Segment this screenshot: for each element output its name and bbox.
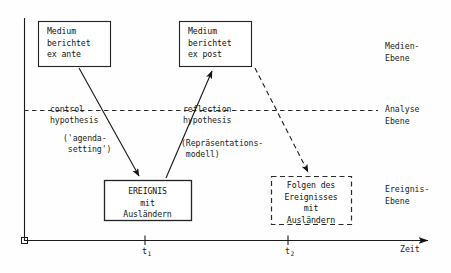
level-label-analyse-ebene: Analyse Ebene [385, 104, 420, 127]
annotation-reflection-hypothesis: reflection hypothesis [183, 104, 231, 127]
annotation-agenda-setting: ('agenda- setting') [63, 133, 111, 156]
level-label-ereignis-ebene: Ereignis- Ebene [385, 184, 429, 207]
axis-label-zeit: Zeit [400, 244, 420, 256]
level-label-medien-ebene: Medien- Ebene [385, 41, 420, 64]
box-folgen-text: Folgen des Ereignisses mit Ausländern [271, 180, 351, 226]
box-medium-ex-ante-text: Medium berichtet ex ante [47, 26, 90, 61]
axis-tick-label-t1: t1 [142, 246, 151, 256]
annotation-repraesentationsmodell: (Repräsentations- modell) [181, 138, 263, 161]
diagram-canvas: Medium berichtet ex ante Medium berichte… [0, 0, 451, 273]
t1-subscript: 1 [147, 250, 151, 257]
axis-tick-label-t2: t2 [285, 246, 294, 256]
box-ereignis-text: EREIGNIS mit Ausländern [104, 186, 191, 221]
box-medium-ex-post-text: Medium berichtet ex post [188, 26, 231, 61]
annotation-control-hypothesis: control hypothesis [50, 104, 98, 127]
t2-subscript: 2 [290, 250, 294, 257]
